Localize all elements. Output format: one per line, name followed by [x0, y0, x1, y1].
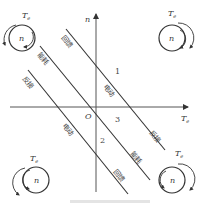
svg-text:Te: Te [175, 149, 183, 159]
label-dynamic-braking-upper: 能耗 [35, 51, 51, 68]
line-number-3: 3 [115, 115, 120, 124]
operating-quadrant-diagram: n Te O 1 3 2 回馈 能耗 反接 电动 电动 反接 能耗 回馈 n T… [0, 0, 197, 206]
label-motoring-line1: 电动 [101, 83, 117, 100]
motor-icon-bottom-right: n Te [159, 149, 195, 193]
figure-caption-placeholder [70, 200, 150, 203]
line-number-2: 2 [100, 136, 105, 145]
motor-icon-bottom-left: n Te [13, 154, 49, 195]
line-number-1: 1 [115, 67, 120, 76]
svg-text:n: n [34, 176, 39, 185]
label-regeneration-upper: 回馈 [59, 34, 75, 51]
svg-text:Te: Te [30, 154, 38, 164]
te-axis-label: Te [181, 114, 189, 124]
svg-text:Te: Te [22, 11, 30, 21]
motor-icon-top-right: n Te [159, 9, 194, 51]
origin-label: O [85, 112, 92, 121]
n-axis-label: n [85, 15, 90, 24]
label-motoring-line2: 电动 [60, 122, 76, 139]
label-regeneration-lower: 回馈 [111, 168, 127, 185]
label-dynamic-braking-lower: 能耗 [128, 150, 144, 167]
svg-text:Te: Te [168, 9, 176, 19]
motor-icon-top-left: n Te [4, 11, 35, 51]
svg-text:n: n [170, 176, 175, 185]
svg-text:n: n [19, 34, 24, 43]
svg-text:n: n [169, 34, 174, 43]
